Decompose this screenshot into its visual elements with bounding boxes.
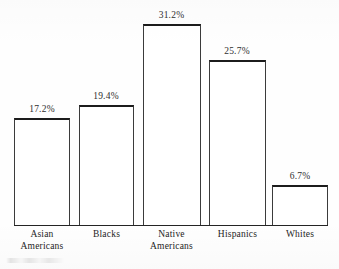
x-axis-baseline <box>14 225 328 226</box>
bar-hispanics[interactable] <box>209 60 266 226</box>
category-label-line-2: Americans <box>6 241 78 253</box>
bar-native-americans[interactable] <box>143 24 201 226</box>
category-label-line-1: Native <box>135 229 208 241</box>
bar-value-label-native-americans: 31.2% <box>135 10 208 21</box>
scan-artifact <box>6 258 64 263</box>
bar-value-label-blacks: 19.4% <box>70 91 142 102</box>
bar-asian-americans[interactable] <box>14 118 70 226</box>
category-label-line-1: Whites <box>264 229 336 241</box>
bar-blacks[interactable] <box>79 105 134 226</box>
bar-value-label-asian-americans: 17.2% <box>6 104 78 115</box>
category-label-whites: Whites <box>264 229 336 241</box>
plot-area: 17.2% 19.4% 31.2% 25.7% 6.7% Asian Ameri… <box>0 0 339 269</box>
category-label-native-americans: Native Americans <box>135 229 208 252</box>
bar-value-label-hispanics: 25.7% <box>201 46 273 57</box>
bar-whites[interactable] <box>272 185 328 226</box>
category-label-line-1: Asian <box>6 229 78 241</box>
category-label-blacks: Blacks <box>70 229 143 241</box>
category-label-line-1: Blacks <box>70 229 143 241</box>
bar-chart-figure: 17.2% 19.4% 31.2% 25.7% 6.7% Asian Ameri… <box>0 0 339 269</box>
category-label-line-2: Americans <box>135 241 208 253</box>
bar-value-label-whites: 6.7% <box>264 171 336 182</box>
category-label-asian-americans: Asian Americans <box>6 229 78 252</box>
